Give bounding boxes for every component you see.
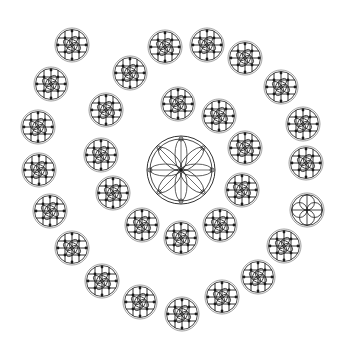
pattern-tile[interactable] [202, 99, 236, 133]
pattern-tile[interactable] [113, 56, 147, 90]
pattern-tile[interactable] [286, 107, 320, 141]
pattern-tile[interactable] [96, 176, 130, 210]
pattern-tile[interactable] [289, 146, 323, 180]
pattern-tile[interactable] [125, 208, 159, 242]
pattern-tile[interactable] [148, 30, 182, 64]
pattern-tile[interactable] [264, 70, 298, 104]
pattern-tile[interactable] [241, 260, 275, 294]
pattern-tile[interactable] [165, 297, 199, 331]
center-rosette [147, 136, 215, 204]
puzzle-board [0, 0, 347, 342]
odd-tile[interactable] [290, 193, 324, 227]
pattern-tile[interactable] [34, 67, 68, 101]
pattern-tile[interactable] [164, 221, 198, 255]
pattern-tile[interactable] [85, 264, 119, 298]
pattern-tile[interactable] [22, 153, 56, 187]
pattern-tile[interactable] [190, 28, 224, 62]
pattern-tile[interactable] [21, 110, 55, 144]
pattern-tile[interactable] [89, 93, 123, 127]
pattern-tile[interactable] [228, 41, 262, 75]
pattern-tile[interactable] [267, 229, 301, 263]
pattern-tile[interactable] [123, 285, 157, 319]
pattern-tile[interactable] [225, 173, 259, 207]
pattern-tile[interactable] [84, 138, 118, 172]
pattern-tile[interactable] [33, 194, 67, 228]
pattern-tile[interactable] [205, 280, 239, 314]
pattern-tile[interactable] [55, 231, 89, 265]
pattern-tile[interactable] [55, 28, 89, 62]
pattern-tile[interactable] [161, 87, 195, 121]
pattern-tile[interactable] [228, 131, 262, 165]
pattern-tile[interactable] [203, 208, 237, 242]
